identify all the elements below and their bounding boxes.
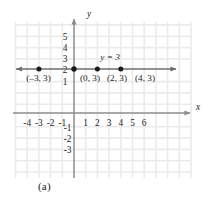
figure-root: y x -4 -3 -2 -1 1 2 3 4 5 6 5 4 3 2 1 -1… <box>0 0 211 202</box>
data-point <box>71 66 76 71</box>
data-point-labels: (–3, 3) (0, 3) (2, 3) (4, 3) <box>26 73 155 83</box>
x-tick-label: -4 <box>23 118 31 128</box>
x-tick-label: 6 <box>142 118 147 128</box>
x-tick-label: 5 <box>130 118 135 128</box>
x-tick-label: -3 <box>35 118 43 128</box>
y-tick-label: 5 <box>63 32 68 42</box>
y-tick-label: 4 <box>63 43 68 53</box>
line-equation-annotation: y = 3 <box>99 52 120 62</box>
x-tick-label: 3 <box>107 118 112 128</box>
x-tick-label: 1 <box>83 118 88 128</box>
x-axis-label: x <box>195 102 201 112</box>
data-point-label: (–3, 3) <box>26 73 51 83</box>
figure-caption: (a) <box>38 180 51 192</box>
y-tick-label: 2 <box>63 65 68 75</box>
x-tick-label: -2 <box>47 118 55 128</box>
data-point <box>36 67 41 72</box>
x-tick-label: 2 <box>95 118 100 128</box>
y-tick-label: -2 <box>64 134 72 144</box>
y-tick-label: 1 <box>63 77 68 87</box>
x-tick-label: 4 <box>118 118 123 128</box>
data-point <box>118 67 123 72</box>
y-tick-label: -1 <box>64 123 72 133</box>
coordinate-plane-graph: y x -4 -3 -2 -1 1 2 3 4 5 6 5 4 3 2 1 -1… <box>0 0 211 202</box>
data-point-label: (2, 3) <box>107 73 127 83</box>
data-point-label: (0, 3) <box>80 73 100 83</box>
y-tick-label: -3 <box>64 145 72 155</box>
data-point <box>95 67 100 72</box>
y-tick-label: 3 <box>63 54 68 64</box>
y-axis-label: y <box>86 9 92 19</box>
data-point-label: (4, 3) <box>135 73 155 83</box>
